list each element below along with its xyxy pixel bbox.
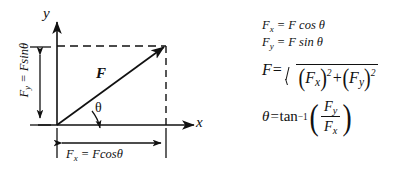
- magnitude-equals: =: [272, 61, 283, 79]
- fx-component-label: Fx = Fcosθ: [66, 148, 123, 163]
- x-axis-label: x: [196, 115, 203, 130]
- angle-fraction: Fy Fx: [321, 98, 340, 137]
- force-vector: [57, 47, 164, 125]
- equation-fx: Fx = F cos θ: [262, 18, 397, 35]
- equation-magnitude: F = (Fx)2+(Fy)2: [262, 61, 397, 89]
- equation-block: Fx = F cos θ Fy = F sin θ F = (Fx)2+(Fy)…: [262, 18, 397, 136]
- fy-label-subscript: y: [22, 86, 32, 90]
- angle-denominator: Fx: [321, 116, 340, 136]
- fx-label-expression: Fcosθ: [92, 147, 122, 161]
- equation-fx-rhs: = F cos θ: [274, 18, 325, 32]
- magnitude-term2-open-paren: (: [342, 63, 349, 92]
- angle-denominator-subscript: x: [333, 125, 338, 136]
- angle-function: tan: [280, 108, 298, 125]
- magnitude-term1-symbol: F: [305, 69, 315, 86]
- magnitude-term2-symbol: F: [349, 69, 359, 86]
- angle-lhs: θ: [262, 108, 269, 125]
- figure-canvas: y x F θ Fx = Fcosθ Fy = Fsinθ Fx = F cos…: [0, 0, 397, 174]
- fy-component-label: Fy = Fsinθ: [18, 33, 33, 107]
- angle-denominator-symbol: F: [324, 118, 333, 134]
- equation-fy: Fy = F sin θ: [262, 35, 397, 52]
- magnitude-term2-exponent: 2: [371, 67, 376, 78]
- equation-fx-symbol: F: [262, 18, 270, 32]
- angle-equals: =: [269, 108, 279, 125]
- angle-numerator-subscript: y: [333, 104, 338, 115]
- fx-label-equals: =: [78, 147, 93, 161]
- equation-angle: θ = tan−1 ( Fy Fx ): [262, 98, 397, 137]
- square-root-icon: (Fx)2+(Fy)2: [284, 61, 379, 89]
- fy-label-equals: =: [17, 71, 31, 86]
- fx-label-symbol: F: [66, 147, 74, 161]
- magnitude-lhs: F: [262, 61, 272, 79]
- equation-fy-symbol: F: [262, 35, 270, 49]
- angle-numerator: Fy: [321, 98, 340, 117]
- magnitude-term2-close-paren: ): [364, 63, 371, 92]
- force-vector-label: F: [96, 66, 106, 81]
- angle-close-paren: ): [343, 103, 352, 132]
- angle-numerator-symbol: F: [324, 98, 333, 114]
- angle-label: θ: [95, 101, 102, 115]
- fy-label-expression: Fsinθ: [17, 43, 31, 71]
- magnitude-operator: +: [332, 69, 343, 86]
- y-axis-label: y: [43, 6, 50, 21]
- angle-function-exponent: −1: [298, 112, 308, 122]
- fy-label-symbol: F: [17, 90, 31, 98]
- equation-fy-rhs: = F sin θ: [274, 35, 323, 49]
- magnitude-term1-open-paren: (: [299, 63, 306, 92]
- magnitude-term1-close-paren: ): [320, 63, 327, 92]
- vector-diagram: y x F θ Fx = Fcosθ Fy = Fsinθ: [0, 0, 230, 174]
- magnitude-radicand: (Fx)2+(Fy)2: [296, 64, 379, 89]
- angle-open-paren: (: [309, 103, 318, 132]
